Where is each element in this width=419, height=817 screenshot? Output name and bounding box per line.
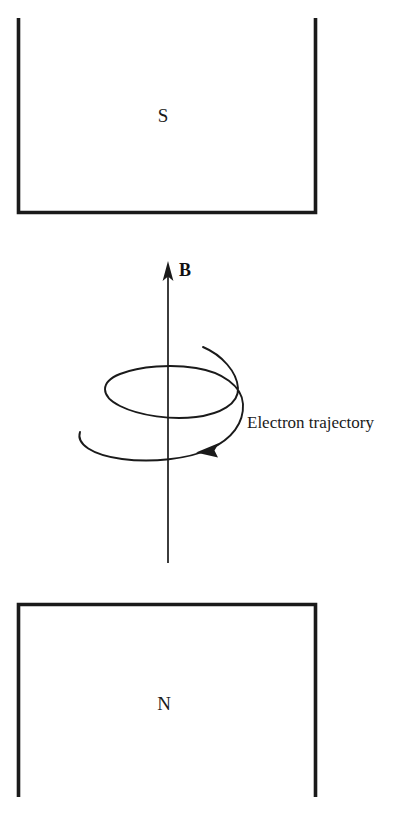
diagram-canvas: S B Electron trajectory N <box>0 0 419 817</box>
magnet-field-diagram: S B Electron trajectory N <box>0 0 419 817</box>
trajectory-arrowhead-icon <box>196 443 219 458</box>
electron-trajectory-group: Electron trajectory <box>79 347 374 461</box>
magnetic-field-label: B <box>179 260 191 280</box>
south-pole-group: S <box>19 18 316 213</box>
north-pole-group: N <box>19 605 316 798</box>
electron-trajectory-label: Electron trajectory <box>247 413 374 432</box>
magnetic-field-group: B <box>163 260 191 563</box>
north-pole-label: N <box>157 693 171 714</box>
south-pole-label: S <box>158 105 169 126</box>
